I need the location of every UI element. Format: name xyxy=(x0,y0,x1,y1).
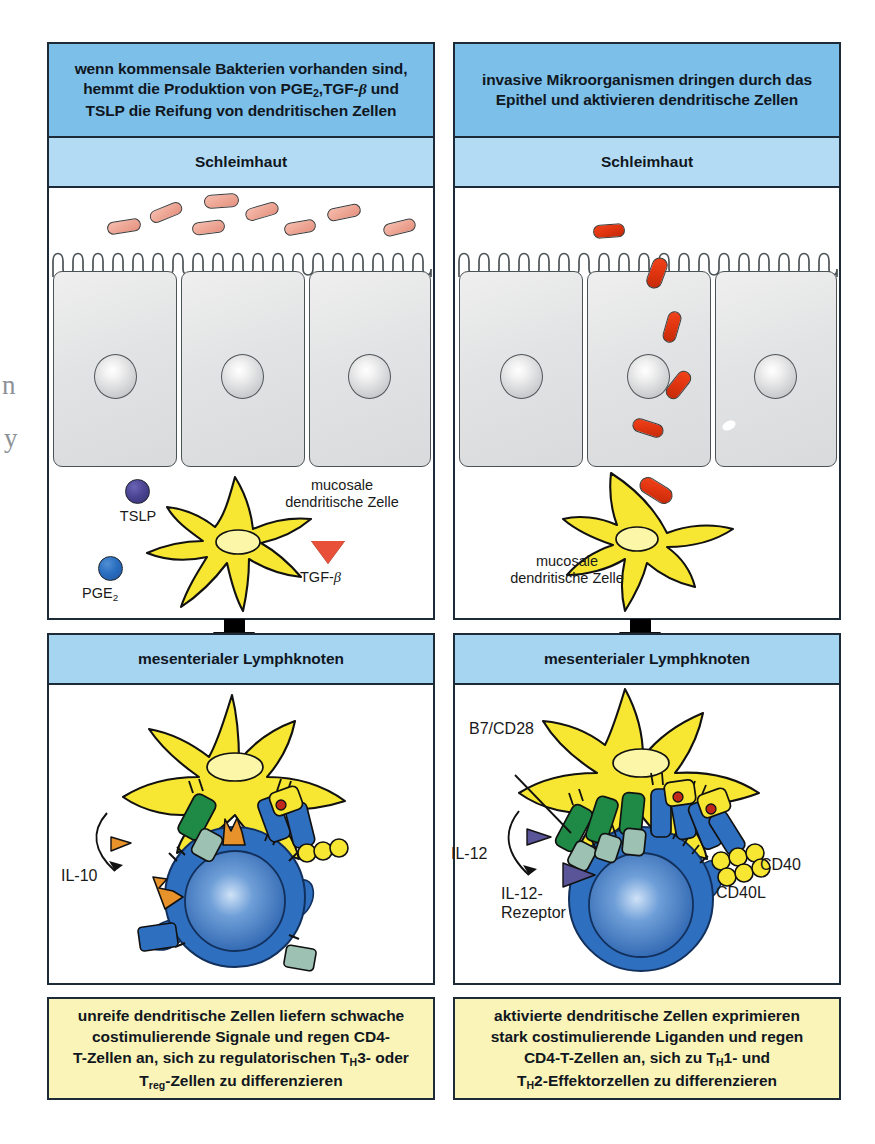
commensal-bacterium xyxy=(106,217,142,235)
figure-root: n y wenn kommensale Bakterien vorhanden … xyxy=(0,0,875,1144)
left-caption-line-1: unreife dendritische Zellen liefern schw… xyxy=(73,1005,409,1026)
right-caption-line-4: TH2-Effektorzellen zu differenzieren xyxy=(491,1070,804,1092)
phagocytosed-bacterium xyxy=(636,474,676,507)
commensal-bacterium xyxy=(204,193,240,209)
cd40-label: CD40 xyxy=(760,856,801,875)
right-upper-panel: invasive Mikroorganismen dringen durch d… xyxy=(453,42,841,620)
right-caption-line-1: aktivierte dendritische Zellen exprimier… xyxy=(491,1005,804,1026)
right-mucosa-label: Schleimhaut xyxy=(601,153,693,171)
epithelial-nucleus xyxy=(348,354,391,399)
epithelial-nucleus xyxy=(627,354,670,399)
left-caption-line-3: T-Zellen an, sich zu regulatorischen TH3… xyxy=(73,1047,409,1069)
pge2-label: PGE2 xyxy=(82,585,118,603)
il12-receptor-label: IL-12- Rezeptor xyxy=(501,885,566,923)
left-dc-label-line-2: dendritische Zelle xyxy=(267,494,417,511)
left-header-band: wenn kommensale Bakterien vorhanden sind… xyxy=(49,44,433,138)
epithelial-nucleus xyxy=(500,354,543,399)
right-dc-label: mucosale dendritische Zelle xyxy=(497,553,637,587)
right-caption-line-2: stark costimulierende Liganden und regen xyxy=(491,1026,804,1047)
left-dc-label: mucosale dendritische Zelle xyxy=(267,477,417,511)
page-edge-bleed-glyph-top: n xyxy=(2,372,16,399)
right-lymph-band: mesenterialer Lymphknoten xyxy=(455,635,839,685)
left-header-line-3: TSLP die Reifung von dendritischen Zelle… xyxy=(75,101,408,121)
pge2-marker-icon xyxy=(98,556,123,581)
right-epithelium xyxy=(457,249,839,469)
left-caption: unreife dendritische Zellen liefern schw… xyxy=(47,997,435,1100)
left-lower-panel: mesenterialer Lymphknoten xyxy=(47,633,435,985)
right-mucosa-band: Schleimhaut xyxy=(455,138,839,188)
right-connector-stem xyxy=(630,619,651,633)
left-mucosa-label: Schleimhaut xyxy=(195,153,287,171)
il12-receptor-label-line-2: Rezeptor xyxy=(501,904,566,923)
right-dc-label-line-2: dendritische Zelle xyxy=(497,570,637,587)
right-lymph-label: mesenterialer Lymphknoten xyxy=(544,650,750,668)
left-lymph-band: mesenterialer Lymphknoten xyxy=(49,635,433,685)
epithelial-nucleus xyxy=(754,354,797,399)
left-mucosa-band: Schleimhaut xyxy=(49,138,433,188)
b7-cd28-label: B7/CD28 xyxy=(469,720,534,739)
right-header-line-2: Epithel und aktivieren dendritische Zell… xyxy=(482,90,812,110)
left-lumen-region xyxy=(49,188,433,250)
left-caption-line-2: costimulierende Signale und regen CD4- xyxy=(73,1026,409,1047)
left-caption-line-4: Treg-Zellen zu differenzieren xyxy=(73,1070,409,1092)
tgf-beta-marker-icon xyxy=(311,541,345,564)
right-dc-label-line-1: mucosale xyxy=(497,553,637,570)
left-upper-panel: wenn kommensale Bakterien vorhanden sind… xyxy=(47,42,435,620)
left-header-line-1: wenn kommensale Bakterien vorhanden sind… xyxy=(75,59,408,79)
right-header-band: invasive Mikroorganismen dringen durch d… xyxy=(455,44,839,138)
left-dc-tcell-interaction xyxy=(49,685,433,983)
invasive-bacterium xyxy=(593,223,626,239)
right-caption: aktivierte dendritische Zellen exprimier… xyxy=(453,997,841,1100)
epithelial-nucleus xyxy=(94,354,137,399)
right-lumen-region xyxy=(455,188,839,250)
left-header-text: wenn kommensale Bakterien vorhanden sind… xyxy=(75,59,408,122)
right-lower-panel: mesenterialer Lymphknoten xyxy=(453,633,841,985)
right-header-text: invasive Mikroorganismen dringen durch d… xyxy=(482,70,812,111)
left-connector-stem xyxy=(224,619,245,633)
left-dc-label-line-1: mucosale xyxy=(267,477,417,494)
left-epithelium xyxy=(51,249,433,469)
il12-receptor-label-line-1: IL-12- xyxy=(501,885,566,904)
right-caption-line-3: CD4-T-Zellen an, sich zu TH1- und xyxy=(491,1047,804,1069)
commensal-bacterium xyxy=(148,200,184,225)
commensal-bacterium xyxy=(244,201,280,223)
epithelial-nucleus xyxy=(221,354,264,399)
commensal-bacterium xyxy=(191,219,225,236)
il10-label: IL-10 xyxy=(61,867,97,886)
commensal-bacterium xyxy=(283,218,317,236)
tgf-beta-label: TGF-β xyxy=(300,569,341,586)
page-edge-bleed-glyph-bottom: y xyxy=(4,425,18,452)
left-header-line-2: hemmt die Produktion von PGE2,TGF-β und xyxy=(75,79,408,101)
left-lymph-label: mesenterialer Lymphknoten xyxy=(138,650,344,668)
commensal-bacterium xyxy=(382,217,417,238)
tslp-label: TSLP xyxy=(107,508,169,525)
left-lamina-propria: TSLP PGE2 TGF-β mucosale dendritische Ze… xyxy=(49,469,433,618)
commensal-bacterium xyxy=(326,203,362,223)
tslp-marker-icon xyxy=(125,479,150,504)
right-header-line-1: invasive Mikroorganismen dringen durch d… xyxy=(482,70,812,90)
right-lamina-propria: mucosale dendritische Zelle xyxy=(455,469,839,618)
il12-label: IL-12 xyxy=(451,845,487,864)
cd40l-label: CD40L xyxy=(716,884,766,903)
